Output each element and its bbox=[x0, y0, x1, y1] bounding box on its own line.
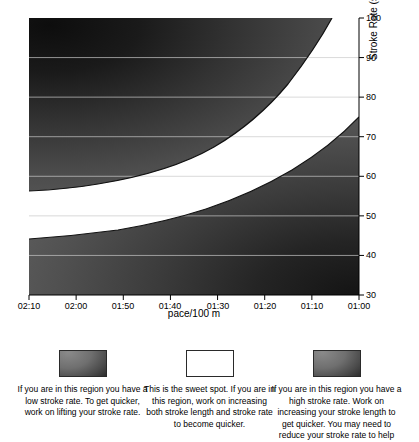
y-axis-title: Stroke Rate (strokes per minute) bbox=[368, 0, 379, 60]
legend-caption-low-stroke-rate: If you are in this region you have a low… bbox=[13, 384, 152, 419]
legend-swatch-shaded-high bbox=[313, 350, 361, 377]
chart-area: 02:10 02:00 01:50 01:40 01:30 01:20 01:1… bbox=[0, 0, 419, 330]
legend-item-sweet-spot: This is the sweet spot. If you are in th… bbox=[140, 350, 279, 430]
legend-item-high-stroke-rate: If you are in this region you have a hig… bbox=[267, 350, 406, 442]
legend-caption-high-stroke-rate: If you are in this region you have a hig… bbox=[267, 384, 406, 442]
legend-item-low-stroke-rate: If you are in this region you have a low… bbox=[13, 350, 152, 419]
legend-caption-sweet-spot: This is the sweet spot. If you are in th… bbox=[140, 384, 279, 430]
x-axis-ticks bbox=[29, 295, 359, 300]
y-axis-ticks bbox=[359, 18, 364, 295]
legend: If you are in this region you have a low… bbox=[0, 350, 419, 442]
y-tick-label-40: 40 bbox=[366, 250, 390, 260]
plot-svg bbox=[0, 0, 419, 330]
stroke-rate-pace-figure: 02:10 02:00 01:50 01:40 01:30 01:20 01:1… bbox=[0, 0, 419, 442]
y-tick-label-30: 30 bbox=[366, 290, 390, 300]
legend-swatch-blank-sweet-spot bbox=[186, 350, 234, 377]
y-tick-label-70: 70 bbox=[366, 132, 390, 142]
y-tick-label-60: 60 bbox=[366, 171, 390, 181]
y-tick-label-80: 80 bbox=[366, 92, 390, 102]
legend-swatch-shaded-low bbox=[59, 350, 107, 377]
y-tick-label-50: 50 bbox=[366, 211, 390, 221]
x-axis-title: pace/100 m bbox=[0, 308, 388, 319]
